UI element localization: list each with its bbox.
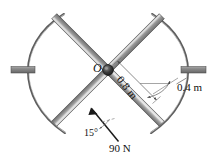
mechanics-figure: O 0.8 m 0.4 m 15° 90 N: [0, 0, 217, 161]
spoke-lower-left: [52, 67, 111, 126]
inner-radius-label: 0.4 m: [177, 82, 202, 93]
angle-label: 15°: [84, 128, 98, 138]
force-magnitude-label: 90 N: [109, 143, 131, 154]
axle-right: [181, 67, 206, 74]
center-point-label: O: [93, 62, 102, 74]
axle-left: [11, 67, 35, 74]
center-hub: [103, 65, 114, 76]
